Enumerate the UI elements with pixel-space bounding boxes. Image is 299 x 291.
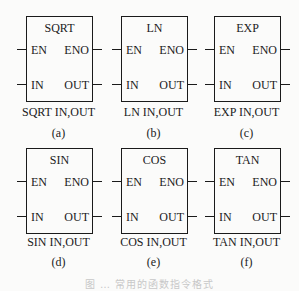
input-wire [205,84,214,85]
subfigure-label: (c) [214,126,279,141]
instruction-syntax: COS IN,OUT [101,235,206,250]
function-block-sin: SINENENOINOUT [26,148,93,234]
output-wire [281,49,290,50]
output-wire [281,84,290,85]
pin-en: EN [126,176,142,188]
pin-out: OUT [64,211,89,223]
pin-eno: ENO [64,176,89,188]
function-name: SIN [27,153,92,168]
instruction-syntax: TAN IN,OUT [194,235,299,250]
output-wire [281,216,290,217]
input-wire [112,84,121,85]
pin-eno: ENO [159,176,184,188]
pin-en: EN [126,44,142,56]
input-wire [205,49,214,50]
output-wire [93,49,102,50]
input-wire [205,216,214,217]
pin-in: IN [31,79,44,91]
function-block-sqrt: SQRTENENOINOUT [26,16,93,102]
input-wire [205,181,214,182]
function-name: EXP [215,21,280,36]
subfigure-label: (e) [121,255,186,270]
pin-eno: ENO [64,44,89,56]
output-wire [188,49,197,50]
pin-en: EN [31,44,47,56]
pin-in: IN [31,211,44,223]
function-block-exp: EXPENENOINOUT [214,16,281,102]
output-wire [188,181,197,182]
instruction-syntax: EXP IN,OUT [194,105,299,120]
function-name: COS [122,153,187,168]
subfigure-label: (d) [26,255,91,270]
output-wire [93,216,102,217]
pin-in: IN [126,211,139,223]
pin-out: OUT [64,79,89,91]
pin-in: IN [219,79,232,91]
function-block-cos: COSENENOINOUT [121,148,188,234]
pin-out: OUT [252,79,277,91]
output-wire [188,84,197,85]
pin-en: EN [219,176,235,188]
figure-caption: 图 … 常用的函数指令格式 [0,276,299,291]
input-wire [17,84,26,85]
pin-out: OUT [252,211,277,223]
pin-en: EN [31,176,47,188]
function-name: LN [122,21,187,36]
pin-eno: ENO [159,44,184,56]
input-wire [112,216,121,217]
output-wire [188,216,197,217]
pin-in: IN [219,211,232,223]
function-block-ln: LNENENOINOUT [121,16,188,102]
input-wire [17,216,26,217]
output-wire [281,181,290,182]
instruction-syntax: SIN IN,OUT [6,235,111,250]
subfigure-label: (a) [26,126,91,141]
pin-out: OUT [159,211,184,223]
function-name: TAN [215,153,280,168]
pin-out: OUT [159,79,184,91]
input-wire [17,49,26,50]
pin-eno: ENO [252,44,277,56]
input-wire [112,49,121,50]
output-wire [93,181,102,182]
input-wire [112,181,121,182]
subfigure-label: (b) [121,126,186,141]
output-wire [93,84,102,85]
pin-en: EN [219,44,235,56]
function-name: SQRT [27,21,92,36]
instruction-syntax: LN IN,OUT [101,105,206,120]
input-wire [17,181,26,182]
function-block-tan: TANENENOINOUT [214,148,281,234]
subfigure-label: (f) [214,255,279,270]
pin-in: IN [126,79,139,91]
instruction-syntax: SQRT IN,OUT [6,105,111,120]
pin-eno: ENO [252,176,277,188]
